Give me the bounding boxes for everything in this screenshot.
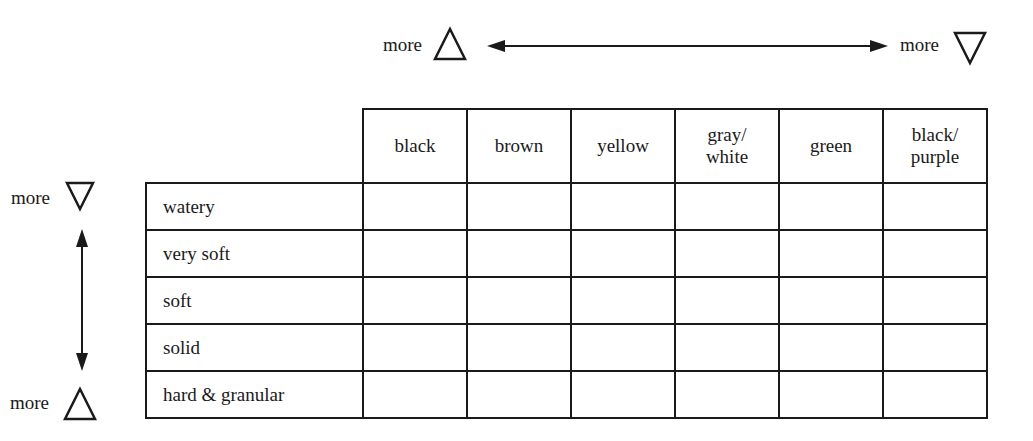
table-cell <box>883 230 987 277</box>
row-label-very-soft: very soft <box>146 230 363 277</box>
header-text: brown <box>495 135 544 156</box>
table-cell <box>363 324 467 371</box>
header-text: gray/ <box>707 124 746 145</box>
header-text: yellow <box>597 135 649 156</box>
column-header-black: black <box>363 109 467 183</box>
table-row: watery <box>146 183 987 230</box>
table-row: solid <box>146 324 987 371</box>
table-cell <box>779 183 883 230</box>
table-cell <box>675 371 779 418</box>
table-cell <box>571 324 675 371</box>
table-cell <box>363 371 467 418</box>
double-arrow-vertical-icon <box>72 227 92 373</box>
column-header-green: green <box>779 109 883 183</box>
stool-chart-table: black brown yellow gray/white green blac… <box>145 108 988 419</box>
table-row: soft <box>146 277 987 324</box>
table-cell <box>363 183 467 230</box>
table-row: very soft <box>146 230 987 277</box>
table-cell <box>779 371 883 418</box>
header-text: black <box>394 135 435 156</box>
left-bottom-more-label: more <box>10 392 49 414</box>
corner-blank <box>146 109 363 183</box>
table-cell <box>675 230 779 277</box>
table-cell <box>571 371 675 418</box>
more-text: more <box>383 34 422 55</box>
table-cell <box>883 277 987 324</box>
table-cell <box>363 230 467 277</box>
top-left-more-label: more <box>383 34 422 56</box>
more-text: more <box>10 392 49 413</box>
table-cell <box>571 277 675 324</box>
column-header-yellow: yellow <box>571 109 675 183</box>
table-cell <box>467 371 571 418</box>
row-label-watery: watery <box>146 183 363 230</box>
column-header-brown: brown <box>467 109 571 183</box>
table-cell <box>363 277 467 324</box>
table-cell <box>675 324 779 371</box>
table-cell <box>883 183 987 230</box>
header-text: green <box>810 135 852 156</box>
more-text: more <box>900 34 939 55</box>
row-label-hard-granular: hard & granular <box>146 371 363 418</box>
top-right-more-label: more <box>900 34 939 56</box>
table-row: hard & granular <box>146 371 987 418</box>
table-cell <box>779 230 883 277</box>
double-arrow-horizontal-icon <box>485 36 890 56</box>
column-header-black-purple: black/purple <box>883 109 987 183</box>
table-cell <box>467 324 571 371</box>
header-text: black/ <box>912 124 958 145</box>
table-cell <box>571 183 675 230</box>
left-top-more-label: more <box>11 187 50 209</box>
table-cell <box>883 371 987 418</box>
header-text: purple <box>911 146 960 167</box>
header-row: black brown yellow gray/white green blac… <box>146 109 987 183</box>
table-cell <box>467 277 571 324</box>
table-cell <box>779 277 883 324</box>
row-label-soft: soft <box>146 277 363 324</box>
header-text: white <box>706 146 748 167</box>
more-text: more <box>11 187 50 208</box>
table-cell <box>467 183 571 230</box>
table-cell <box>779 324 883 371</box>
triangle-down-icon <box>952 30 988 66</box>
triangle-up-icon <box>432 26 468 62</box>
column-header-gray-white: gray/white <box>675 109 779 183</box>
triangle-up-icon <box>62 386 98 422</box>
table-cell <box>675 183 779 230</box>
table-cell <box>883 324 987 371</box>
table-cell <box>675 277 779 324</box>
triangle-down-icon <box>64 180 96 212</box>
table-cell <box>571 230 675 277</box>
table-cell <box>467 230 571 277</box>
row-label-solid: solid <box>146 324 363 371</box>
